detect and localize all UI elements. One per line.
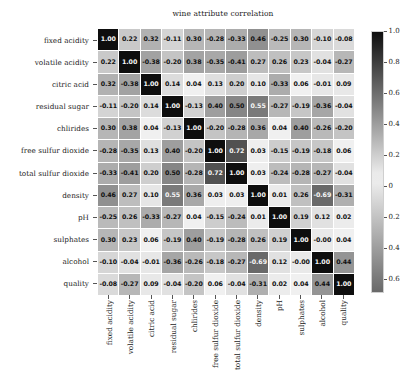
heatmap-cell: -0.28 [226, 118, 246, 139]
x-axis-tick-mark [311, 295, 332, 299]
x-axis-label-5: free sulfur dioxide [211, 300, 220, 368]
heatmap-cell: -0.00 [312, 229, 332, 250]
heatmap-cell: 0.46 [248, 29, 268, 50]
heatmap-cell: -0.41 [119, 163, 139, 184]
heatmap-cell: 0.09 [141, 274, 161, 295]
heatmap-cell: 1.00 [248, 185, 268, 206]
y-axis-label-9: sulphates [0, 229, 93, 251]
heatmap-cell: 0.40 [162, 140, 182, 161]
y-axis-tick-mark [93, 229, 97, 251]
heatmap-cell: 0.32 [98, 74, 118, 95]
x-axis-label-2: citric acid [147, 300, 156, 337]
heatmap-cell: 0.01 [248, 207, 268, 228]
heatmap-cell: 0.10 [141, 185, 161, 206]
heatmap-cell: 0.72 [226, 140, 246, 161]
heatmap-cell: 0.03 [226, 185, 246, 206]
heatmap-cell: 0.30 [98, 229, 118, 250]
heatmap-cell: 0.14 [162, 74, 182, 95]
heatmap-cell: 0.02 [269, 274, 289, 295]
heatmap-cell: 0.44 [312, 274, 332, 295]
heatmap-cell: 0.38 [184, 51, 204, 72]
colorbar-tick-mark [384, 186, 387, 187]
heatmap-cell: -0.00 [291, 252, 311, 273]
colorbar-tick-mark [384, 248, 387, 249]
heatmap-cell: -0.04 [119, 252, 139, 273]
x-axis-label-slot-1: volatile acidity [119, 300, 140, 374]
heatmap-figure: wine attribute correlation fixed acidity… [0, 0, 420, 374]
colorbar-tick-mark [384, 155, 387, 156]
heatmap-cell: 1.00 [334, 274, 354, 295]
heatmap-cell: -0.13 [162, 118, 182, 139]
heatmap-cell: 0.26 [119, 207, 139, 228]
heatmap-cell: -0.19 [205, 229, 225, 250]
heatmap-cell: -0.13 [184, 96, 204, 117]
x-axis-tick-labels: fixed acidityvolatile aciditycitric acid… [98, 300, 354, 374]
heatmap-cell: 1.00 [141, 74, 161, 95]
heatmap-cell: 0.20 [141, 163, 161, 184]
heatmap-cell: 0.40 [184, 229, 204, 250]
heatmap-cell: 0.26 [269, 51, 289, 72]
heatmap-cell: -0.01 [141, 252, 161, 273]
heatmap-cell: 1.00 [184, 118, 204, 139]
heatmap-cell: 0.04 [334, 229, 354, 250]
heatmap-cell: -0.28 [226, 229, 246, 250]
x-axis-ticks [98, 295, 354, 299]
heatmap-cell: 0.26 [248, 229, 268, 250]
heatmap-cell: 1.00 [269, 207, 289, 228]
heatmap-cell: 1.00 [312, 252, 332, 273]
x-axis-tick-mark [162, 295, 183, 299]
heatmap-cell: 0.27 [248, 51, 268, 72]
x-axis-tick-mark [290, 295, 311, 299]
heatmap-cell: -0.27 [269, 96, 289, 117]
heatmap-cell: -0.69 [248, 252, 268, 273]
heatmap-cell: 0.04 [184, 207, 204, 228]
colorbar-tick-mark [384, 31, 387, 32]
heatmap-cell: -0.19 [162, 229, 182, 250]
y-axis-label-7: density [0, 184, 93, 206]
colorbar-gradient [371, 31, 384, 293]
heatmap-cell: 0.01 [269, 185, 289, 206]
x-axis-tick-mark [333, 295, 354, 299]
colorbar-tick-label: 0.4 [389, 244, 400, 251]
y-axis-tick-mark [93, 206, 97, 228]
x-axis-label-3: residual sugar [168, 300, 177, 353]
heatmap-cell: 0.06 [334, 140, 354, 161]
heatmap-cell: -0.24 [226, 207, 246, 228]
x-axis-tick-mark [269, 295, 290, 299]
x-axis-tick-mark [141, 295, 162, 299]
x-axis-label-8: pH [275, 300, 284, 311]
heatmap-cell: 0.55 [162, 185, 182, 206]
heatmap-cell: 0.10 [248, 74, 268, 95]
heatmap-cell: -0.19 [291, 140, 311, 161]
heatmap-cell: 0.03 [248, 140, 268, 161]
colorbar-tick-mark [384, 93, 387, 94]
heatmap-cell: -0.69 [312, 185, 332, 206]
heatmap-cell: -0.20 [184, 274, 204, 295]
heatmap-cell: -0.27 [312, 163, 332, 184]
x-axis-label-9: sulphates [296, 300, 305, 336]
heatmap-cell: -0.20 [119, 96, 139, 117]
heatmap-cell: -0.25 [269, 29, 289, 50]
y-axis-tick-mark [93, 184, 97, 206]
y-axis-label-3: residual sugar [0, 96, 93, 118]
colorbar-tick-label: 0.6 [389, 89, 400, 96]
y-axis-tick-labels: fixed acidityvolatile aciditycitric acid… [0, 29, 93, 295]
heatmap-cell: -0.11 [162, 29, 182, 50]
heatmap-cell: -0.26 [184, 252, 204, 273]
x-axis-label-7: density [253, 300, 262, 327]
x-axis-label-slot-9: sulphates [290, 300, 311, 374]
heatmap-cell: 0.50 [162, 163, 182, 184]
heatmap-cell: 0.36 [248, 118, 268, 139]
heatmap-cell: 1.00 [291, 229, 311, 250]
y-axis-tick-mark [93, 73, 97, 95]
colorbar-tick-mark [384, 217, 387, 218]
heatmap-cell: 1.00 [162, 96, 182, 117]
heatmap-cell: 1.00 [119, 51, 139, 72]
x-axis-label-4: chlirides [189, 300, 198, 332]
x-axis-label-6: total sulfur dioxide [232, 300, 241, 370]
heatmap-cell: -0.33 [141, 207, 161, 228]
heatmap-cell: -0.20 [184, 140, 204, 161]
heatmap-cell: -0.28 [205, 29, 225, 50]
heatmap-cell: -0.31 [334, 185, 354, 206]
heatmap-cell: -0.27 [334, 51, 354, 72]
